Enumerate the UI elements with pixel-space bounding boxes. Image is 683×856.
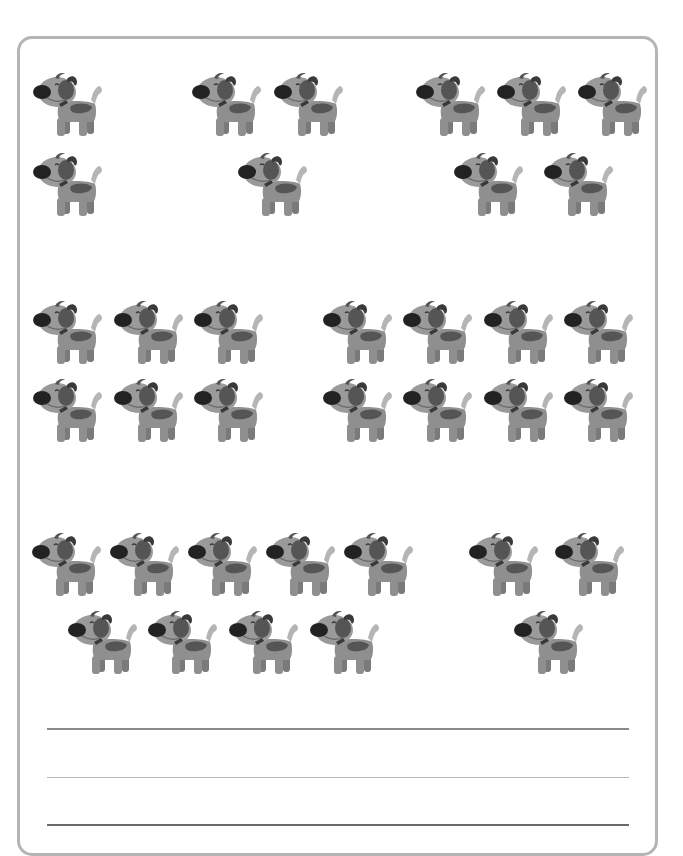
dog-icon <box>110 530 182 598</box>
dog-icon <box>33 298 105 366</box>
dog-icon <box>229 608 301 676</box>
dog-icon <box>33 150 105 218</box>
dog-icon <box>469 530 541 598</box>
dog-icon <box>194 298 266 366</box>
dog-icon <box>148 608 220 676</box>
dog-icon <box>114 376 186 444</box>
answer-line-3[interactable] <box>47 824 629 826</box>
dog-icon <box>344 530 416 598</box>
dog-icon <box>310 608 382 676</box>
dog-icon <box>514 608 586 676</box>
dog-icon <box>194 376 266 444</box>
dog-icon <box>33 376 105 444</box>
dog-icon <box>323 376 395 444</box>
dog-icon <box>68 608 140 676</box>
dog-icon <box>323 298 395 366</box>
dog-icon <box>188 530 260 598</box>
dog-icon <box>555 530 627 598</box>
dog-icon <box>454 150 526 218</box>
dog-icon <box>192 70 264 138</box>
dog-icon <box>497 70 569 138</box>
answer-line-2[interactable] <box>47 777 629 778</box>
dog-icon <box>484 376 556 444</box>
dog-icon <box>564 298 636 366</box>
dog-icon <box>403 298 475 366</box>
dog-icon <box>403 376 475 444</box>
dog-icon <box>33 70 105 138</box>
dog-icon <box>238 150 310 218</box>
dog-icon <box>32 530 104 598</box>
dog-icon <box>114 298 186 366</box>
dog-icon <box>544 150 616 218</box>
answer-line-1[interactable] <box>47 728 629 730</box>
dog-icon <box>266 530 338 598</box>
dog-icon <box>564 376 636 444</box>
dog-icon <box>578 70 650 138</box>
dog-icon <box>274 70 346 138</box>
dog-icon <box>484 298 556 366</box>
dog-icon <box>416 70 488 138</box>
